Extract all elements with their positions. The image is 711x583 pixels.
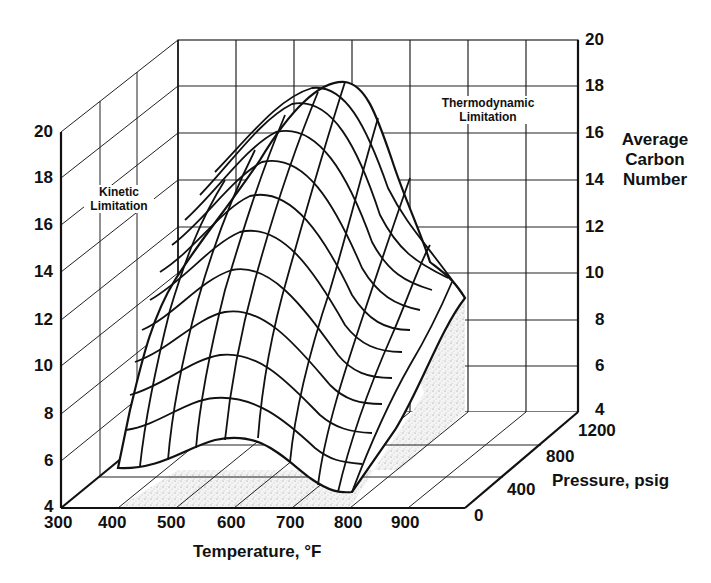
thermo-line2: Limitation [434, 110, 542, 124]
z-tick-left-16: 16 [34, 215, 53, 235]
z-tick-right-8: 8 [595, 310, 604, 330]
z-axis-title: Average Carbon Number [612, 130, 698, 190]
x-tick-700: 700 [276, 513, 304, 533]
z-tick-left-8: 8 [44, 404, 53, 424]
z-axis-title-line1: Average [612, 130, 698, 150]
surface-plot [0, 0, 711, 583]
thermo-line1: Thermodynamic [434, 96, 542, 110]
thermodynamic-limitation-annotation: Thermodynamic Limitation [434, 96, 542, 124]
y-tick-0: 0 [474, 506, 483, 526]
z-tick-right-4: 4 [595, 400, 604, 420]
z-tick-right-10: 10 [585, 263, 604, 283]
x-tick-300: 300 [44, 513, 72, 533]
z-tick-left-10: 10 [34, 356, 53, 376]
y-tick-400: 400 [507, 480, 535, 500]
z-tick-left-12: 12 [34, 310, 53, 330]
x-tick-800: 800 [334, 513, 362, 533]
x-tick-500: 500 [157, 513, 185, 533]
z-tick-right-6: 6 [595, 356, 604, 376]
z-tick-left-18: 18 [34, 168, 53, 188]
z-tick-right-16: 16 [585, 123, 604, 143]
x-tick-400: 400 [98, 513, 126, 533]
kinetic-line2: Limitation [84, 199, 154, 213]
y-axis-title: Pressure, psig [552, 471, 669, 491]
y-tick-1200: 1200 [578, 421, 616, 441]
z-tick-left-14: 14 [34, 262, 53, 282]
z-tick-right-18: 18 [585, 76, 604, 96]
x-tick-900: 900 [391, 513, 419, 533]
z-axis-title-line3: Number [612, 170, 698, 190]
z-tick-right-14: 14 [585, 170, 604, 190]
x-axis-title: Temperature, °F [193, 542, 321, 562]
y-tick-800: 800 [546, 447, 574, 467]
z-axis-title-line2: Carbon [612, 150, 698, 170]
z-tick-left-6: 6 [44, 451, 53, 471]
z-tick-left-20: 20 [34, 122, 53, 142]
kinetic-line1: Kinetic [84, 185, 154, 199]
x-tick-600: 600 [217, 513, 245, 533]
z-tick-right-12: 12 [585, 217, 604, 237]
kinetic-limitation-annotation: Kinetic Limitation [84, 185, 154, 213]
z-tick-right-20: 20 [585, 30, 604, 50]
